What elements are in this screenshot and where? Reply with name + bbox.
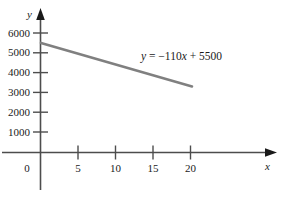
- y-axis-label: y: [27, 9, 32, 20]
- chart-plot-area: [0, 0, 282, 197]
- x-axis-label: x: [265, 161, 270, 172]
- line-equation-annotation: y = −110x + 5500: [141, 51, 222, 63]
- x-axis-arrow-icon: [265, 148, 277, 157]
- y-axis-arrow-icon: [36, 8, 45, 20]
- y-tick-label-5000: 5000: [0, 47, 30, 58]
- y-tick-label-4000: 4000: [0, 67, 30, 78]
- y-tick-label-3000: 3000: [0, 87, 30, 98]
- equation-constant: 5500: [199, 50, 222, 62]
- equation-slope-term: −110: [158, 50, 181, 62]
- equation-plus: +: [187, 50, 199, 62]
- y-tick-label-1000: 1000: [0, 127, 30, 138]
- chart-figure: 6000 5000 4000 3000 2000 1000 0 5 10 15 …: [0, 0, 282, 197]
- x-tick-label-10: 10: [106, 163, 126, 174]
- equation-relation: =: [146, 50, 158, 62]
- y-tick-label-2000: 2000: [0, 107, 30, 118]
- x-tick-label-5: 5: [68, 163, 88, 174]
- origin-tick-label: 0: [17, 163, 37, 174]
- x-tick-label-20: 20: [181, 163, 201, 174]
- y-tick-label-6000: 6000: [0, 28, 30, 39]
- x-tick-label-15: 15: [143, 163, 163, 174]
